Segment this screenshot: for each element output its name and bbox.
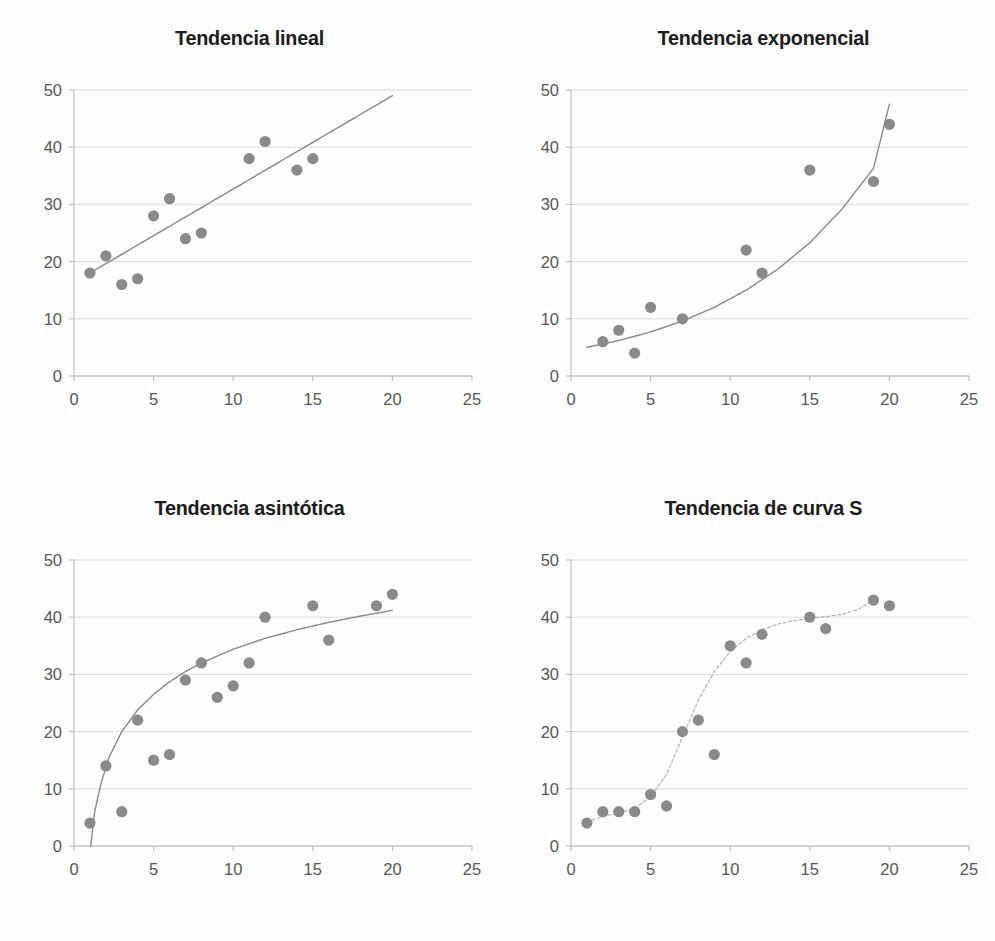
y-tick-label: 10 (44, 310, 62, 328)
data-point (116, 806, 127, 817)
data-point (100, 760, 111, 771)
data-point (629, 348, 640, 359)
data-point (244, 153, 255, 164)
data-point (613, 325, 624, 336)
data-point (677, 726, 688, 737)
x-tick-label: 25 (960, 860, 978, 878)
data-point (244, 657, 255, 668)
data-point (148, 755, 159, 766)
data-point (323, 634, 334, 645)
data-point (709, 749, 720, 760)
data-point (613, 806, 624, 817)
data-point (100, 250, 111, 261)
data-point (804, 612, 815, 623)
x-tick-label: 0 (566, 390, 575, 408)
data-point (196, 657, 207, 668)
data-point (820, 623, 831, 634)
y-tick-label: 50 (44, 551, 62, 569)
data-point (307, 600, 318, 611)
chart-title-exponencial: Tendencia exponencial (512, 26, 995, 50)
y-tick-label: 0 (53, 367, 62, 385)
y-tick-label: 10 (44, 780, 62, 798)
trend-charts-figure: Tendencia lineal 010203040500510152025 T… (0, 0, 995, 941)
data-point (629, 806, 640, 817)
data-point (756, 629, 767, 640)
x-tick-label: 5 (646, 390, 655, 408)
panel-tendencia-asintotica: Tendencia asintótica 0102030405005101520… (0, 470, 497, 941)
y-tick-label: 10 (541, 310, 559, 328)
y-tick-label: 40 (44, 138, 62, 156)
y-tick-label: 0 (550, 837, 559, 855)
x-tick-label: 25 (960, 390, 978, 408)
data-point (868, 594, 879, 605)
data-point (884, 600, 895, 611)
y-tick-label: 0 (550, 367, 559, 385)
x-tick-label: 5 (646, 860, 655, 878)
chart-plot-lineal: 010203040500510152025 (0, 58, 497, 458)
y-tick-label: 20 (44, 723, 62, 741)
data-point (259, 136, 270, 147)
y-tick-label: 40 (44, 608, 62, 626)
data-point (741, 657, 752, 668)
x-tick-label: 15 (304, 390, 322, 408)
y-tick-label: 50 (44, 81, 62, 99)
x-tick-label: 25 (463, 390, 481, 408)
data-point (132, 715, 143, 726)
y-tick-label: 40 (541, 138, 559, 156)
x-tick-label: 10 (721, 860, 739, 878)
trend-line (587, 104, 889, 347)
data-point (116, 279, 127, 290)
data-point (884, 119, 895, 130)
y-tick-label: 50 (541, 551, 559, 569)
data-point (180, 233, 191, 244)
y-tick-label: 50 (541, 81, 559, 99)
data-point (677, 313, 688, 324)
x-tick-label: 25 (463, 860, 481, 878)
data-point (164, 193, 175, 204)
data-point (180, 675, 191, 686)
chart-plot-curva-s: 010203040500510152025 (497, 528, 995, 928)
data-point (212, 692, 223, 703)
data-point (148, 210, 159, 221)
data-point (693, 715, 704, 726)
chart-title-curva-s: Tendencia de curva S (512, 496, 995, 520)
y-tick-label: 30 (44, 195, 62, 213)
data-point (259, 612, 270, 623)
x-tick-label: 5 (149, 390, 158, 408)
data-point (387, 589, 398, 600)
data-point (228, 680, 239, 691)
x-tick-label: 20 (383, 390, 401, 408)
data-point (741, 245, 752, 256)
panel-tendencia-exponencial: Tendencia exponencial 010203040500510152… (497, 0, 995, 470)
chart-title-lineal: Tendencia lineal (16, 26, 517, 50)
data-point (661, 800, 672, 811)
data-point (868, 176, 879, 187)
data-point (164, 749, 175, 760)
y-tick-label: 20 (541, 723, 559, 741)
x-tick-label: 20 (383, 860, 401, 878)
y-tick-label: 30 (541, 195, 559, 213)
chart-plot-asintotica: 010203040500510152025 (0, 528, 497, 928)
data-point (307, 153, 318, 164)
data-point (84, 818, 95, 829)
data-point (84, 267, 95, 278)
panel-tendencia-lineal: Tendencia lineal 010203040500510152025 (0, 0, 497, 470)
x-tick-label: 5 (149, 860, 158, 878)
data-point (645, 789, 656, 800)
data-point (804, 164, 815, 175)
x-tick-label: 10 (721, 390, 739, 408)
x-tick-label: 15 (304, 860, 322, 878)
y-tick-label: 40 (541, 608, 559, 626)
trend-line (91, 610, 393, 846)
data-point (597, 336, 608, 347)
data-point (371, 600, 382, 611)
y-tick-label: 10 (541, 780, 559, 798)
y-tick-label: 30 (541, 665, 559, 683)
trend-line (90, 96, 392, 273)
x-tick-label: 15 (801, 860, 819, 878)
x-tick-label: 0 (69, 390, 78, 408)
chart-plot-exponencial: 010203040500510152025 (497, 58, 995, 458)
data-point (756, 267, 767, 278)
data-point (581, 818, 592, 829)
data-point (597, 806, 608, 817)
